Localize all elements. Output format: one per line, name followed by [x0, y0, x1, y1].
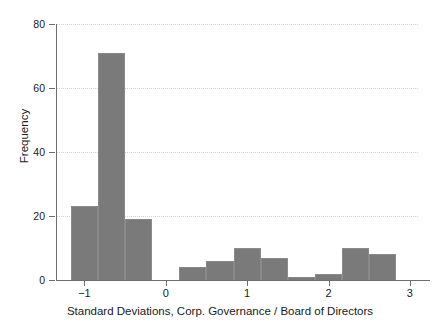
histogram-figure: 020406080 −10123 Standard Deviations, Co… — [0, 0, 440, 329]
histogram-bar — [206, 261, 233, 280]
x-tick-mark — [166, 281, 167, 286]
y-tick-mark — [49, 152, 55, 153]
x-tick-mark — [329, 281, 330, 286]
x-axis-spine — [56, 280, 430, 281]
gridline — [56, 24, 418, 25]
y-tick-mark — [49, 24, 55, 25]
y-axis-label: Frequency — [18, 66, 30, 206]
y-tick-mark — [49, 216, 55, 217]
y-tick-label: 0 — [5, 275, 45, 286]
y-tick-label: 80 — [5, 19, 45, 30]
y-tick-label: 20 — [5, 211, 45, 222]
histogram-bar — [261, 258, 288, 280]
y-tick-mark — [49, 88, 55, 89]
x-tick-label: −1 — [64, 288, 104, 299]
histogram-bar — [179, 267, 206, 280]
x-tick-label: 2 — [309, 288, 349, 299]
x-tick-mark — [247, 281, 248, 286]
x-tick-label: 0 — [146, 288, 186, 299]
x-axis-label: Standard Deviations, Corp. Governance / … — [0, 305, 440, 317]
x-tick-label: 1 — [227, 288, 267, 299]
x-tick-mark — [410, 281, 411, 286]
histogram-bar — [234, 248, 261, 280]
y-axis-spine — [56, 24, 57, 281]
x-tick-label: 3 — [390, 288, 430, 299]
y-tick-mark — [49, 280, 55, 281]
histogram-bar — [369, 254, 396, 280]
histogram-bar — [98, 53, 125, 280]
histogram-bar — [125, 219, 152, 280]
histogram-bar — [71, 206, 98, 280]
x-tick-mark — [84, 281, 85, 286]
histogram-bar — [342, 248, 369, 280]
plot-area — [56, 24, 418, 280]
